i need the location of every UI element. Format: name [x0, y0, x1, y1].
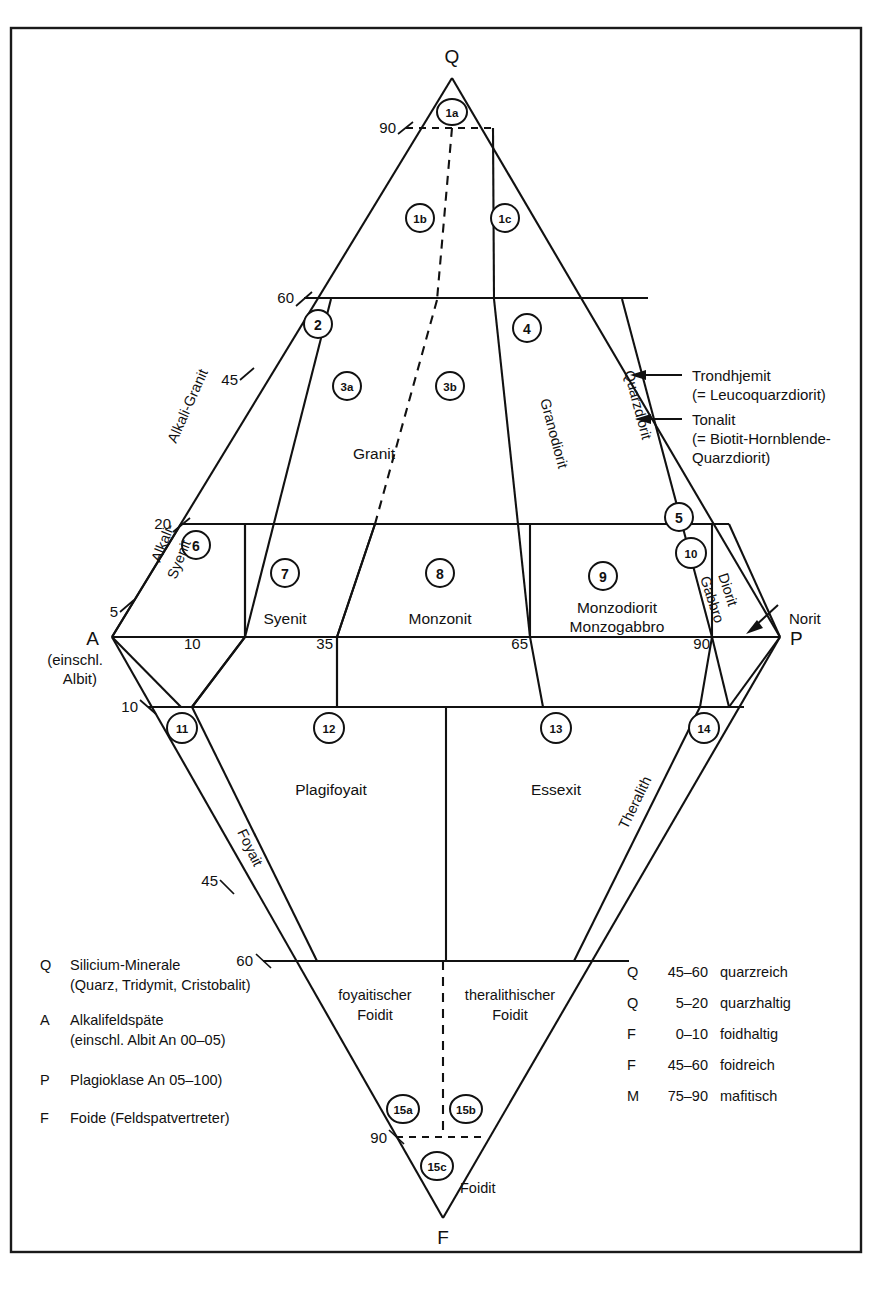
tick-label-35: 35	[316, 635, 333, 652]
tick-label-f45: 45	[201, 872, 218, 889]
rock-label-granodiorit: Granodiorit	[537, 397, 571, 470]
tick-f45	[220, 880, 234, 894]
tick-label-q60: 60	[277, 289, 294, 306]
field-badge-1b: 1b	[406, 204, 434, 232]
field-badge-5: 5	[665, 503, 693, 531]
field-label-4: 4	[523, 321, 531, 337]
qapf-svg-canvas: Q A (einschl. Albit) P F 90 60 45 20 5 1…	[0, 0, 872, 1291]
field-label-14: 14	[698, 723, 711, 735]
field-label-5: 5	[675, 510, 683, 526]
divider-granite-dashed-upper	[437, 128, 452, 300]
divider-granite-dashed-lower	[375, 300, 437, 524]
rock-label-monzonit: Monzonit	[409, 610, 473, 627]
legend-left-key-3: F	[40, 1110, 49, 1126]
legend-left-line1-1: Alkalifeldspäte	[70, 1012, 164, 1028]
field-label-2: 2	[314, 317, 322, 333]
vertex-label-a: A	[86, 628, 99, 649]
legend-left-key-1: A	[40, 1012, 50, 1028]
field-label-1c: 1c	[499, 213, 512, 225]
tick-q45	[240, 368, 254, 380]
field-label-11: 11	[176, 723, 189, 735]
field-label-3b: 3b	[443, 381, 456, 393]
legend-right-key-3: F	[627, 1057, 636, 1073]
field-label-1b: 1b	[413, 213, 426, 225]
field-label-12: 12	[323, 723, 336, 735]
boundary-foyait-band	[192, 707, 317, 961]
legend-right-key-0: Q	[627, 964, 638, 980]
field-badge-15b: 15b	[450, 1095, 482, 1123]
field-label-9: 9	[599, 569, 607, 585]
divider-granodiorite	[494, 299, 530, 637]
tick-label-q90: 90	[379, 119, 396, 136]
legend-left-line1-3: Foide (Feldspatvertreter)	[70, 1110, 230, 1126]
legend-right-term-0: quarzreich	[720, 964, 788, 980]
legend-left-line1-0: Silicium-Minerale	[70, 957, 180, 973]
band-p90-lower	[712, 637, 729, 707]
vertex-label-p: P	[790, 628, 803, 649]
vertex-label-a-sub2: Albit)	[63, 670, 97, 687]
field-badge-3b: 3b	[436, 372, 464, 400]
field-badge-15c: 15c	[421, 1152, 453, 1180]
legend-left-key-2: P	[40, 1072, 50, 1088]
callout-tonalit-sub1: (= Biotit-Hornblende-	[692, 430, 831, 447]
tick-label-f90: 90	[370, 1129, 387, 1146]
legend-right-key-4: M	[627, 1088, 639, 1104]
legend-right-term-3: foidreich	[720, 1057, 775, 1073]
field-badge-13: 13	[541, 713, 571, 743]
field-label-10: 10	[685, 548, 698, 560]
vertex-p-upper	[729, 524, 780, 637]
field-badge-10: 10	[676, 538, 706, 568]
rock-label-essexit: Essexit	[531, 781, 582, 798]
field-badge-14: 14	[689, 713, 719, 743]
legend-left-line2-0: (Quarz, Tridymit, Cristobalit)	[70, 977, 250, 993]
legend-right-term-1: quarzhaltig	[720, 995, 791, 1011]
field-badge-3a: 3a	[333, 372, 361, 400]
field-label-15b: 15b	[456, 1104, 476, 1116]
rock-label-theralith: Theralith	[615, 774, 654, 832]
tick-label-65: 65	[511, 635, 528, 652]
legend-right-term-2: foidhaltig	[720, 1026, 778, 1042]
rock-label-plagifoyait: Plagifoyait	[295, 781, 367, 798]
field-label-1a: 1a	[446, 107, 459, 119]
rock-label-theralithischer-foidit-1: theralithischer	[465, 987, 555, 1003]
field-badge-9: 9	[589, 562, 617, 590]
legend-left-line1-2: Plagioklase An 05–100)	[70, 1072, 222, 1088]
legend-right-term-4: mafitisch	[720, 1088, 777, 1104]
tick-label-a-inner10: 10	[184, 635, 201, 652]
tick-label-q5: 5	[110, 603, 118, 620]
vertex-label-q: Q	[445, 46, 460, 67]
edge-a-f	[112, 637, 443, 1218]
field-badge-1a: 1a	[437, 99, 467, 125]
vertex-label-f: F	[437, 1227, 449, 1248]
rock-label-alkali-granit: Alkali-Granit	[164, 367, 211, 446]
tick-label-f60: 60	[236, 952, 253, 969]
legend-left-key-0: Q	[40, 957, 51, 973]
rock-label-monzodiorit: Monzodiorit	[577, 599, 658, 616]
field-label-15a: 15a	[393, 1104, 413, 1116]
tick-label-q45: 45	[221, 371, 238, 388]
vertex-label-a-sub1: (einschl.	[47, 651, 103, 668]
rock-label-theralithischer-foidit-2: Foidit	[492, 1007, 527, 1023]
legend-left-line2-1: (einschl. Albit An 00–05)	[70, 1032, 226, 1048]
field-badge-12: 12	[314, 713, 344, 743]
legend-right-range-3: 45–60	[668, 1057, 708, 1073]
rock-label-syenit: Syenit	[263, 610, 307, 627]
tick-label-base10: 10	[121, 698, 138, 715]
legend-right-range-2: 0–10	[676, 1026, 708, 1042]
rock-label-foidit: Foidit	[460, 1180, 495, 1196]
field-label-6: 6	[192, 538, 200, 554]
field-badge-2: 2	[304, 310, 332, 338]
callout-trondhjemit: Trondhjemit	[692, 367, 771, 384]
field-label-3a: 3a	[341, 381, 354, 393]
legend-right-range-4: 75–90	[668, 1088, 708, 1104]
legend-right-range-1: 5–20	[676, 995, 708, 1011]
legend-right: Q 45–60 quarzreich Q 5–20 quarzhaltig F …	[627, 964, 791, 1104]
rock-label-foyaitischer-foidit-1: foyaitischer	[338, 987, 412, 1003]
rock-label-granit: Granit	[353, 445, 396, 462]
vertex-p-lower	[729, 637, 780, 707]
field-badge-15a: 15a	[387, 1095, 419, 1123]
legend-right-key-2: F	[627, 1026, 636, 1042]
callout-norit: Norit	[789, 610, 822, 627]
callout-tonalit-sub2: Quarzdiorit)	[692, 449, 770, 466]
field-label-8: 8	[436, 566, 444, 582]
